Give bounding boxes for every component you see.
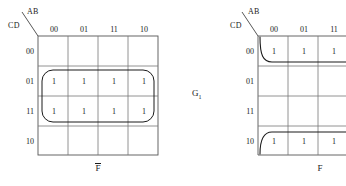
kmap-left-cell-r2c1: 1 [74, 107, 94, 116]
kmap-right-col-label-1: 01 [294, 25, 314, 34]
kmap-left-col-label-2: 11 [104, 25, 124, 34]
kmap-left-row-label-2: 11 [12, 107, 34, 116]
kmap-right-row-label-0: 00 [232, 47, 254, 56]
kmap-right-row-label-2: 11 [232, 107, 254, 116]
kmap-right-side-var-label: CD [230, 21, 242, 30]
kmap-left-caption-text: F [95, 163, 100, 173]
kmap-left-col-label-3: 10 [134, 25, 154, 34]
kmap-right-caption: F [300, 163, 340, 173]
kmap-left-col-label-0: 00 [44, 25, 64, 34]
kmap-right-col-label-2: 11 [324, 25, 344, 34]
kmap-left-row-label-3: 10 [12, 137, 34, 146]
kmap-left-caption: F [78, 163, 118, 173]
kmap-right-row-label-3: 10 [232, 137, 254, 146]
kmap-left-cell-r2c2: 1 [104, 107, 124, 116]
kmap-left-top-var-label: AB [27, 7, 39, 16]
karnaugh-map-left: AB CD 00 01 11 10 00 01 11 10 1 1 1 1 1 … [0, 0, 180, 186]
kmap-left-cell-r1c3: 1 [134, 77, 154, 86]
kmap-left-col-label-1: 01 [74, 25, 94, 34]
kmap-right-cell-r3c2: 1 [324, 137, 344, 146]
kmap-left-cell-r2c3: 1 [134, 107, 154, 116]
kmap-right-col-label-0: 00 [264, 25, 284, 34]
kmap-right-row-label-1: 01 [232, 77, 254, 86]
kmap-right-cell-r0c0: 1 [264, 47, 284, 56]
kmap-right-cell-r3c0: 1 [264, 137, 284, 146]
kmap-left-cell-r1c1: 1 [74, 77, 94, 86]
kmap-right-top-var-label: AB [248, 7, 260, 16]
figure-canvas: AB CD 00 01 11 10 00 01 11 10 1 1 1 1 1 … [0, 0, 346, 186]
kmap-left-cell-r1c0: 1 [44, 77, 64, 86]
middle-signal-label: G1 [192, 88, 202, 100]
kmap-left-cell-r2c0: 1 [44, 107, 64, 116]
kmap-left-cell-r1c2: 1 [104, 77, 124, 86]
kmap-left-row-label-1: 01 [12, 77, 34, 86]
middle-signal-subscript: 1 [199, 94, 202, 100]
kmap-right-cell-r0c2: 1 [324, 47, 344, 56]
kmap-right-cell-r0c1: 1 [294, 47, 314, 56]
kmap-left-row-label-0: 00 [12, 47, 34, 56]
karnaugh-map-right: AB CD 00 01 11 00 01 11 10 1 1 1 1 1 1 F [230, 0, 346, 186]
kmap-right-cell-r3c1: 1 [294, 137, 314, 146]
kmap-left-side-var-label: CD [8, 21, 20, 30]
